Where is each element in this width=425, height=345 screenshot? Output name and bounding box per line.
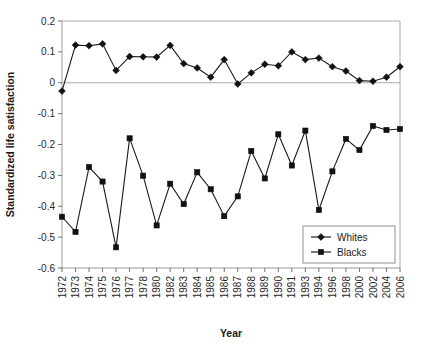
x-axis-tick-label: 1991 — [286, 276, 297, 299]
x-axis-tick-label: 1972 — [57, 276, 68, 299]
data-point-marker — [329, 63, 336, 70]
data-point-marker — [370, 123, 375, 128]
data-point-marker — [289, 163, 294, 168]
data-point-marker — [235, 194, 240, 199]
data-point-marker — [72, 42, 79, 49]
data-point-marker — [73, 229, 78, 234]
data-point-marker — [127, 136, 132, 141]
x-axis-tick-label: 1978 — [138, 276, 149, 299]
x-axis-title: Year — [220, 327, 242, 339]
data-point-marker — [262, 176, 267, 181]
data-point-marker — [140, 53, 147, 60]
series-whites — [59, 40, 404, 94]
data-point-marker — [276, 132, 281, 137]
x-axis-tick-label: 1984 — [192, 276, 203, 299]
data-point-marker — [59, 88, 66, 95]
x-axis-tick-label: 1988 — [246, 276, 257, 299]
data-point-marker — [113, 245, 118, 250]
x-axis-tick-label: 1973 — [70, 276, 81, 299]
x-axis-tick-label: 1994 — [313, 276, 324, 299]
legend-label: Whites — [337, 232, 368, 243]
x-axis-tick-label: 1986 — [219, 276, 230, 299]
x-axis-tick-label: 1990 — [273, 276, 284, 299]
legend-label: Blacks — [337, 247, 366, 258]
x-axis-tick-label: 1983 — [178, 276, 189, 299]
data-point-marker — [261, 61, 268, 68]
data-point-marker — [357, 147, 362, 152]
x-axis-tick-label: 1993 — [300, 276, 311, 299]
y-axis-tick-label: -0.4 — [38, 201, 56, 212]
x-axis-tick-label: 1989 — [259, 276, 270, 299]
y-axis-tick-label: 0.1 — [41, 46, 55, 57]
y-axis-tick-label: 0.2 — [41, 16, 55, 27]
data-point-marker — [343, 68, 350, 75]
y-axis-tick-label: 0 — [49, 77, 55, 88]
y-axis-tick-label: -0.3 — [38, 170, 56, 181]
data-point-marker — [154, 223, 159, 228]
data-point-marker — [370, 78, 377, 85]
data-point-marker — [384, 127, 389, 132]
data-point-marker — [315, 55, 322, 62]
data-point-marker — [141, 173, 146, 178]
data-point-marker — [195, 170, 200, 175]
line-chart: 0.20.10-0.1-0.2-0.3-0.4-0.5-0.6197219731… — [0, 0, 425, 345]
data-point-marker — [181, 201, 186, 206]
series-line — [62, 44, 400, 91]
x-axis-tick-label: 1985 — [205, 276, 216, 299]
data-point-marker — [222, 214, 227, 219]
data-point-marker — [99, 40, 106, 47]
x-axis-tick-label: 2004 — [381, 276, 392, 299]
x-axis-tick-label: 1974 — [84, 276, 95, 299]
data-point-marker — [59, 214, 64, 219]
data-point-marker — [194, 65, 201, 72]
data-point-marker — [302, 56, 309, 63]
chart-legend: WhitesBlacks — [303, 226, 395, 263]
x-axis-tick-label: 2002 — [368, 276, 379, 299]
data-point-marker — [316, 207, 321, 212]
x-axis-tick-label: 2006 — [395, 276, 406, 299]
y-axis-tick-label: -0.2 — [38, 139, 56, 150]
data-point-marker — [343, 136, 348, 141]
data-point-marker — [86, 164, 91, 169]
y-axis-tick-label: -0.5 — [38, 232, 56, 243]
data-point-marker — [303, 128, 308, 133]
y-axis-tick-label: -0.6 — [38, 263, 56, 274]
y-axis-title: Standardized life satisfaction — [4, 72, 16, 217]
x-axis-tick-label: 1977 — [124, 276, 135, 299]
x-axis-tick-label: 2000 — [354, 276, 365, 299]
x-axis-tick-label: 1998 — [341, 276, 352, 299]
x-axis-tick-label: 1976 — [111, 276, 122, 299]
chart-figure: 0.20.10-0.1-0.2-0.3-0.4-0.5-0.6197219731… — [0, 0, 425, 345]
data-point-marker — [168, 181, 173, 186]
x-axis-tick-label: 1987 — [232, 276, 243, 299]
x-axis-tick-label: 1980 — [151, 276, 162, 299]
x-axis-tick-label: 1996 — [327, 276, 338, 299]
data-point-marker — [100, 179, 105, 184]
x-axis-tick-label: 1975 — [97, 276, 108, 299]
data-point-marker — [86, 42, 93, 49]
data-point-marker — [318, 249, 323, 254]
x-axis-tick-label: 1982 — [165, 276, 176, 299]
y-axis-tick-label: -0.1 — [38, 108, 56, 119]
data-point-marker — [330, 169, 335, 174]
data-point-marker — [208, 187, 213, 192]
data-point-marker — [249, 148, 254, 153]
data-point-marker — [397, 126, 402, 131]
